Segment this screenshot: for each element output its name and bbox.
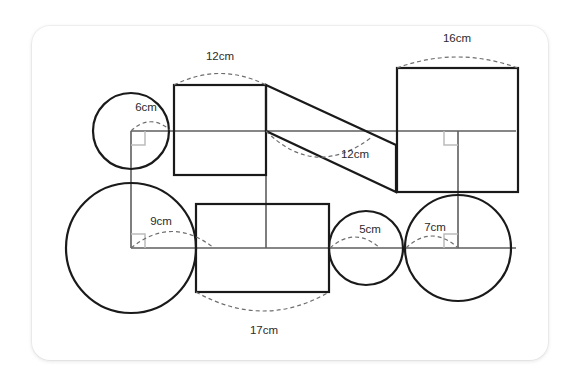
- label-16cm: 16cm: [443, 32, 471, 44]
- label-12cm-parallelogram: 12cm: [341, 148, 369, 160]
- screenshot-stage: 6cm 12cm 16cm 12cm 9cm 17cm 5cm 7cm: [0, 0, 577, 381]
- right-angle-marker-16cm: [444, 131, 458, 145]
- arc-17cm: [196, 292, 329, 311]
- dimension-labels: 6cm 12cm 16cm 12cm 9cm 17cm 5cm 7cm: [135, 32, 471, 336]
- right-angle-marker-6cm: [131, 131, 145, 145]
- label-9cm: 9cm: [150, 215, 172, 227]
- label-12cm-square: 12cm: [206, 50, 234, 62]
- arc-5cm: [330, 237, 380, 248]
- solid-shapes: [66, 68, 518, 313]
- diagram-card: 6cm 12cm 16cm 12cm 9cm 17cm 5cm 7cm: [32, 26, 548, 360]
- right-angle-marker-7cm: [444, 234, 458, 248]
- square-12cm: [174, 85, 266, 175]
- arc-16cm: [397, 57, 518, 68]
- label-7cm: 7cm: [424, 221, 446, 233]
- parallelogram-12cm: [266, 85, 396, 192]
- arc-12cm-square: [174, 74, 266, 86]
- label-17cm: 17cm: [250, 324, 278, 336]
- geometry-diagram: 6cm 12cm 16cm 12cm 9cm 17cm 5cm 7cm: [32, 26, 548, 360]
- construction-axes: [131, 131, 516, 248]
- arc-6cm: [131, 122, 170, 131]
- label-6cm: 6cm: [135, 101, 157, 113]
- label-5cm: 5cm: [359, 223, 381, 235]
- dimension-arcs: [131, 57, 518, 311]
- arc-7cm: [406, 236, 458, 248]
